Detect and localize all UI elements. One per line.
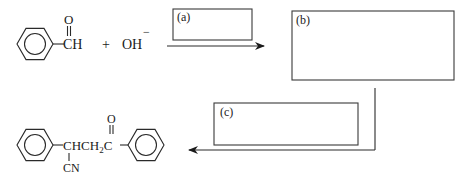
benzaldehyde: O CH [17, 12, 82, 60]
box-a[interactable]: (a) [173, 9, 252, 40]
ketone-oxygen: O [107, 112, 116, 126]
product: CHCH2C CN O [17, 112, 164, 175]
box-a-label: (a) [177, 10, 190, 24]
box-b[interactable]: (b) [292, 11, 454, 80]
box-b-label: (b) [296, 13, 310, 27]
hydroxide-charge: − [143, 25, 150, 39]
hydroxide-ion: OH − [122, 25, 150, 52]
hydroxide-formula: OH [122, 37, 142, 52]
carbonyl-oxygen: O [64, 12, 73, 27]
benzene-ring-icon [128, 129, 164, 160]
benzene-ring-icon [17, 28, 53, 59]
box-c-label: (c) [220, 105, 233, 119]
aldehyde-group: CH [63, 37, 82, 52]
reaction-scheme: O CH + OH − (a) (b) (c) CHCH2C CN [0, 0, 465, 179]
cyano-group: CN [63, 161, 80, 175]
plus-sign: + [102, 37, 110, 52]
box-c[interactable]: (c) [214, 103, 358, 145]
benzene-ring-icon [17, 129, 53, 160]
product-chain: CHCH2C [63, 138, 112, 155]
